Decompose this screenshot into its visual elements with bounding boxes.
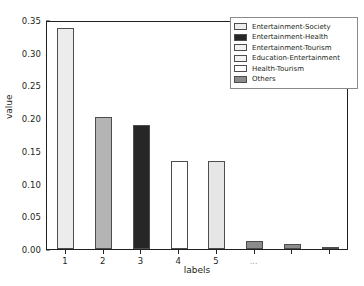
legend-label: Others xyxy=(252,75,276,83)
legend-label: Entertainment-Society xyxy=(252,23,331,31)
x-tick-mark xyxy=(103,250,104,254)
legend-item: Education-Entertainment xyxy=(234,53,353,63)
x-tick-mark xyxy=(140,250,141,254)
legend-swatch-icon xyxy=(234,34,247,41)
legend-swatch-icon xyxy=(234,23,247,30)
bar-chart-figure: value 0.000.050.100.150.200.250.300.35 1… xyxy=(0,0,364,286)
legend-label: Education-Entertainment xyxy=(252,54,340,62)
legend-swatch-icon xyxy=(234,44,247,51)
y-tick-label: 0.35 xyxy=(22,16,41,26)
bar xyxy=(284,244,301,249)
x-axis-label: labels xyxy=(46,265,348,275)
legend-label: Entertainment-Tourism xyxy=(252,44,332,52)
bar xyxy=(57,28,74,249)
bar xyxy=(133,125,150,249)
y-tick-label: 0.15 xyxy=(22,147,41,157)
y-axis-tick-labels: 0.000.050.100.150.200.250.300.35 xyxy=(0,21,46,250)
y-tick-label: 0.05 xyxy=(22,212,41,222)
bar xyxy=(322,247,339,249)
legend-item: Others xyxy=(234,74,353,84)
bar xyxy=(208,161,225,249)
legend-swatch-icon xyxy=(234,65,247,72)
x-tick-mark xyxy=(254,250,255,254)
y-tick-label: 0.10 xyxy=(22,180,41,190)
legend-item: Entertainment-Tourism xyxy=(234,43,353,53)
legend-swatch-icon xyxy=(234,55,247,62)
chart-legend: Entertainment-SocietyEntertainment-Healt… xyxy=(230,17,358,89)
legend-item: Health-Tourism xyxy=(234,64,353,74)
legend-label: Entertainment-Health xyxy=(252,33,328,41)
x-tick-mark xyxy=(178,250,179,254)
legend-item: Entertainment-Health xyxy=(234,32,353,42)
y-tick-label: 0.00 xyxy=(22,245,41,255)
bar xyxy=(95,117,112,249)
legend-swatch-icon xyxy=(234,76,247,83)
y-tick-label: 0.20 xyxy=(22,114,41,124)
x-tick-mark xyxy=(216,250,217,254)
y-tick-label: 0.25 xyxy=(22,81,41,91)
x-tick-mark xyxy=(329,250,330,254)
x-tick-mark xyxy=(291,250,292,254)
bar xyxy=(246,241,263,250)
legend-item: Entertainment-Society xyxy=(234,22,353,32)
bar xyxy=(171,161,188,249)
legend-label: Health-Tourism xyxy=(252,65,304,73)
y-tick-label: 0.30 xyxy=(22,49,41,59)
x-tick-mark xyxy=(65,250,66,254)
